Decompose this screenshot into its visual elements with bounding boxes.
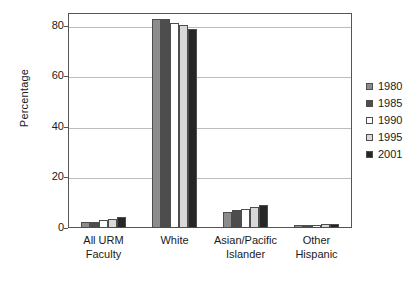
legend-item[interactable]: 2001 bbox=[366, 146, 402, 163]
bar bbox=[108, 219, 117, 228]
legend-swatch-icon bbox=[366, 100, 373, 107]
x-axis-label: Asian/PacificIslander bbox=[210, 234, 281, 261]
bar bbox=[152, 19, 161, 228]
bar-group bbox=[81, 13, 127, 228]
legend-label: 1980 bbox=[378, 81, 402, 92]
x-axis-label-line: Hispanic bbox=[281, 248, 352, 262]
bar bbox=[241, 209, 250, 228]
bar bbox=[179, 25, 188, 228]
legend-label: 1985 bbox=[378, 98, 402, 109]
y-tick-mark bbox=[64, 228, 68, 229]
y-tick-label: 60 bbox=[24, 70, 64, 81]
bars-layer bbox=[68, 13, 352, 228]
bar bbox=[303, 225, 312, 228]
legend-item[interactable]: 1980 bbox=[366, 78, 402, 95]
bar-chart: Percentage 020406080 All URMFacultyWhite… bbox=[0, 0, 418, 284]
legend: 19801985199019952001 bbox=[366, 78, 402, 163]
y-tick-label: 40 bbox=[24, 121, 64, 132]
bar bbox=[90, 222, 99, 228]
x-axis-label: All URMFaculty bbox=[68, 234, 139, 261]
legend-label: 1995 bbox=[378, 132, 402, 143]
x-axis-label-line: All URM bbox=[68, 234, 139, 248]
bar bbox=[232, 210, 241, 228]
x-axis-label-line: White bbox=[139, 234, 210, 248]
bar bbox=[330, 224, 339, 228]
y-tick-label: 80 bbox=[24, 20, 64, 31]
y-tick-label: 20 bbox=[24, 171, 64, 182]
bar bbox=[117, 217, 126, 228]
x-axis-label-line: Faculty bbox=[68, 248, 139, 262]
legend-swatch-icon bbox=[366, 117, 373, 124]
x-axis-label-line: Islander bbox=[210, 248, 281, 262]
bar bbox=[170, 23, 179, 228]
x-axis-label: OtherHispanic bbox=[281, 234, 352, 261]
bar-group bbox=[152, 13, 198, 228]
bar bbox=[161, 19, 170, 228]
legend-label: 2001 bbox=[378, 149, 402, 160]
legend-label: 1990 bbox=[378, 115, 402, 126]
bar-group bbox=[223, 13, 269, 228]
legend-item[interactable]: 1995 bbox=[366, 129, 402, 146]
x-axis-label-line: Other bbox=[281, 234, 352, 248]
bar bbox=[321, 224, 330, 228]
bar bbox=[294, 225, 303, 228]
legend-item[interactable]: 1990 bbox=[366, 112, 402, 129]
x-axis-label: White bbox=[139, 234, 210, 248]
legend-swatch-icon bbox=[366, 151, 373, 158]
bar bbox=[312, 225, 321, 228]
bar bbox=[99, 220, 108, 228]
bar bbox=[223, 212, 232, 228]
bar bbox=[250, 207, 259, 229]
y-axis-title: Percentage bbox=[18, 38, 30, 158]
bar bbox=[188, 29, 197, 228]
bar-group bbox=[294, 13, 340, 228]
y-tick-label: 0 bbox=[24, 222, 64, 233]
bar bbox=[81, 222, 90, 228]
legend-swatch-icon bbox=[366, 134, 373, 141]
bar bbox=[259, 205, 268, 228]
legend-item[interactable]: 1985 bbox=[366, 95, 402, 112]
legend-swatch-icon bbox=[366, 83, 373, 90]
x-axis-label-line: Asian/Pacific bbox=[210, 234, 281, 248]
